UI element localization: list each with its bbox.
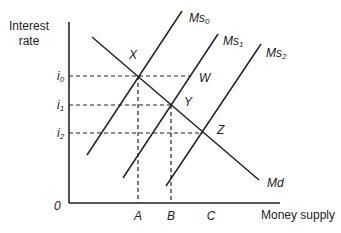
- i2-label: i2: [57, 126, 65, 141]
- c-label: C: [207, 209, 216, 223]
- a-label: A: [133, 209, 142, 223]
- ms1-label: Ms1: [223, 34, 243, 49]
- md-label: Md: [267, 176, 284, 190]
- point-x-label: X: [128, 48, 138, 62]
- b-label: B: [167, 209, 175, 223]
- ms0-label: Ms0: [189, 11, 210, 26]
- origin-label: 0: [54, 199, 61, 213]
- y-axis-label-line2: rate: [19, 34, 40, 48]
- i0-label: i0: [57, 69, 65, 84]
- money-market-diagram: Interest rate i0 i1 i2 0 A B C Money sup…: [0, 0, 341, 233]
- y-axis-label-line1: Interest: [9, 19, 50, 33]
- point-y-label: Y: [184, 95, 193, 109]
- ms2-label: Ms2: [266, 46, 287, 61]
- point-w-label: W: [199, 71, 212, 85]
- point-z-label: Z: [216, 123, 225, 137]
- i1-label: i1: [57, 98, 64, 113]
- ms2-curve: [166, 44, 261, 186]
- x-axis-label: Money supply: [261, 208, 335, 222]
